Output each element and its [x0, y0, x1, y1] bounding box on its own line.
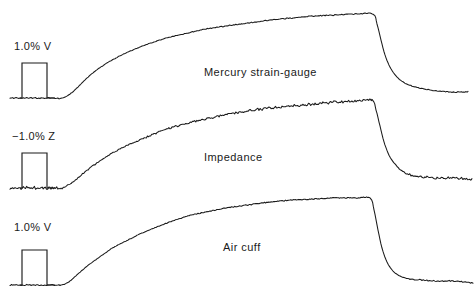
calibration-label-mercury-strain-gauge: 1.0% V: [14, 40, 51, 52]
waveform-plot: [0, 0, 475, 300]
calibration-pulse: [20, 153, 55, 188]
calibration-label-air-cuff: 1.0% V: [14, 221, 51, 233]
trace-label-impedance: Impedance: [204, 151, 262, 163]
trace-label-air-cuff: Air cuff: [223, 241, 261, 253]
waveform-trace: [10, 13, 468, 99]
calibration-label-impedance: −1.0% Z: [12, 130, 55, 142]
calibration-pulse: [20, 250, 55, 285]
calibration-pulse: [20, 63, 55, 98]
trace-label-mercury-strain-gauge: Mercury strain-gauge: [204, 66, 317, 78]
waveform-trace: [10, 99, 472, 189]
calibration-pulse-group: [20, 63, 55, 285]
plethysmography-figure: 1.0% V −1.0% Z 1.0% V Mercury strain-gau…: [0, 0, 475, 300]
